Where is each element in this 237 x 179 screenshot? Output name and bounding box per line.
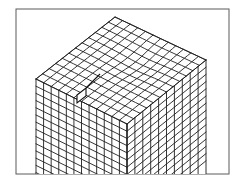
- mesh-diagram-svg: [0, 0, 237, 179]
- mesh-figure: Finite element mesh of a 3D rectangular …: [0, 0, 237, 179]
